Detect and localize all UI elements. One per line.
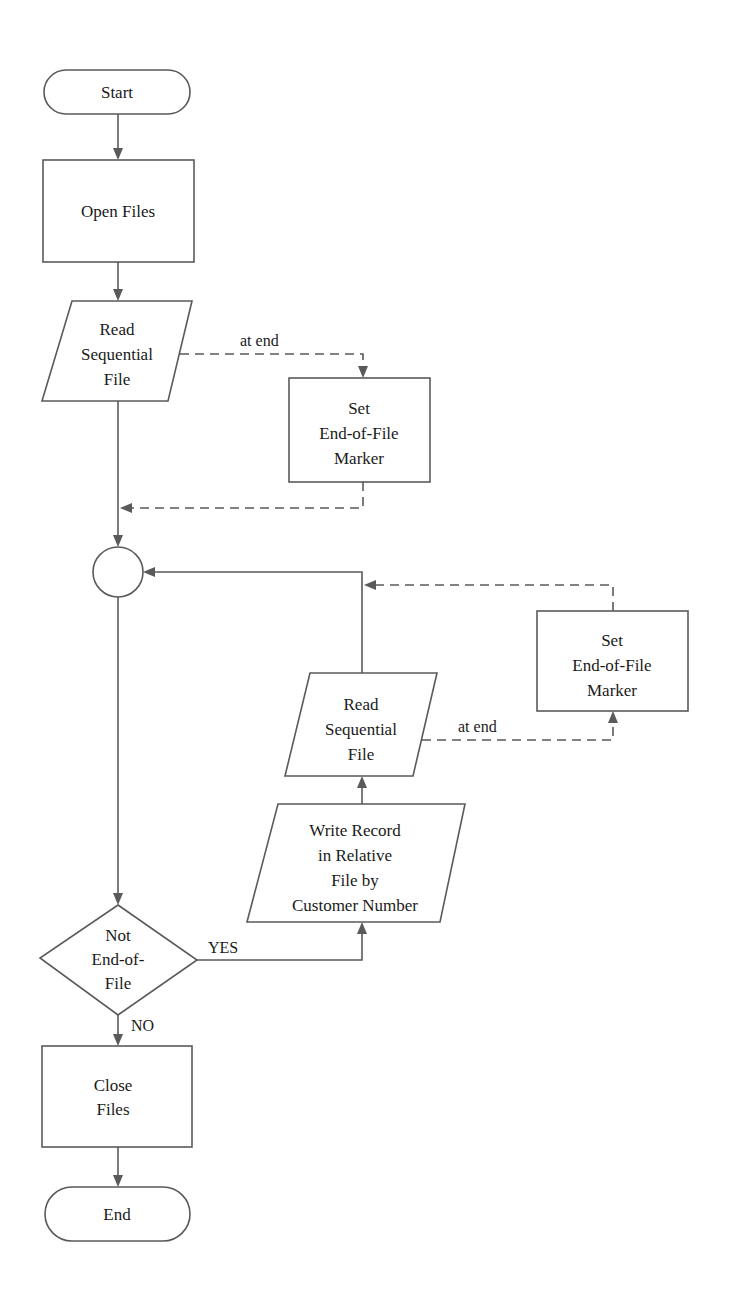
- node-write-line: Write Record: [309, 821, 401, 840]
- node-end: End: [45, 1187, 190, 1241]
- edge-eof-1-to-main-line: [120, 482, 363, 513]
- node-write-record: Write Record in Relative File by Custome…: [247, 804, 465, 922]
- node-read-1-line: File: [104, 370, 130, 389]
- arrow-head-icon: [113, 1175, 123, 1187]
- arrow-head-icon: [357, 922, 367, 934]
- node-read-sequential-1: Read Sequential File: [42, 301, 192, 401]
- node-eof-2-line: Set: [601, 631, 623, 650]
- node-open-files-label: Open Files: [81, 202, 155, 221]
- node-start-label: Start: [101, 83, 133, 102]
- edge-read-2-at-end-to-eof-2: [422, 711, 618, 740]
- arrow-head-icon: [357, 776, 367, 788]
- arrow-head-icon: [358, 366, 368, 378]
- node-start: Start: [44, 70, 190, 114]
- arrow-head-icon: [113, 148, 123, 160]
- flowchart: Start Open Files Read Sequential File at…: [0, 0, 730, 1299]
- edge-write-to-read-2: [357, 776, 367, 804]
- node-decision: Not End-of- File: [40, 905, 197, 1015]
- arrow-head-icon: [364, 580, 376, 590]
- arrow-head-icon: [113, 535, 123, 547]
- node-connector: [93, 547, 143, 597]
- arrow-head-icon: [608, 711, 618, 723]
- node-decision-line: File: [105, 974, 131, 993]
- edge-label-no: NO: [131, 1017, 154, 1034]
- node-read-sequential-2: Read Sequential File: [285, 673, 437, 776]
- edge-read-1-to-connector: [113, 401, 123, 547]
- node-set-eof-1: Set End-of-File Marker: [289, 378, 430, 482]
- node-close-files: Close Files: [42, 1046, 192, 1147]
- node-read-2-line: Read: [344, 695, 379, 714]
- node-read-1-line: Sequential: [81, 345, 153, 364]
- node-close-line: Close: [94, 1076, 133, 1095]
- arrow-head-icon: [113, 893, 123, 905]
- node-eof-2-line: End-of-File: [572, 656, 651, 675]
- edge-connector-to-decision: [113, 597, 123, 905]
- edge-eof-2-to-return-line: [364, 580, 613, 611]
- node-decision-line: End-of-: [92, 950, 145, 969]
- node-open-files: Open Files: [43, 160, 194, 262]
- node-write-line: File by: [331, 871, 379, 890]
- edge-read-1-at-end-to-eof-1: [180, 354, 368, 378]
- arrow-head-icon: [120, 503, 132, 513]
- node-close-line: Files: [96, 1100, 129, 1119]
- node-decision-line: Not: [105, 926, 131, 945]
- arrow-head-icon: [143, 567, 155, 577]
- edge-read-2-to-connector: [143, 567, 362, 673]
- node-read-2-line: File: [348, 745, 374, 764]
- node-eof-2-line: Marker: [587, 681, 637, 700]
- arrow-head-icon: [113, 289, 123, 301]
- node-read-2-line: Sequential: [325, 720, 397, 739]
- node-write-line: in Relative: [318, 846, 392, 865]
- node-set-eof-2: Set End-of-File Marker: [537, 611, 688, 711]
- node-eof-1-line: Marker: [334, 449, 384, 468]
- edge-close-to-end: [113, 1147, 123, 1187]
- node-eof-1-line: End-of-File: [319, 424, 398, 443]
- edge-decision-no-to-close: [113, 1015, 123, 1046]
- arrow-head-icon: [113, 1034, 123, 1046]
- node-read-1-line: Read: [100, 320, 135, 339]
- edge-open-files-to-read-1: [113, 262, 123, 301]
- edge-label-yes: YES: [208, 939, 238, 956]
- node-eof-1-line: Set: [348, 399, 370, 418]
- node-write-line: Customer Number: [292, 896, 418, 915]
- node-end-label: End: [103, 1205, 131, 1224]
- edge-label-at-end-2: at end: [458, 718, 497, 735]
- edge-label-at-end-1: at end: [240, 332, 279, 349]
- edge-start-to-open-files: [113, 114, 123, 160]
